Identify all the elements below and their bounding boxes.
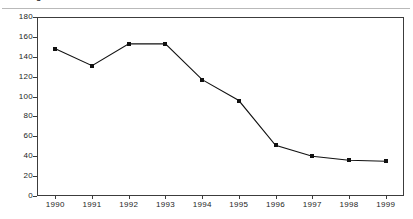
x-tick-mark: [276, 196, 277, 199]
x-tick-label: 1991: [83, 200, 102, 209]
x-tick-label: 1994: [193, 200, 212, 209]
y-tick-mark: [33, 97, 37, 98]
plot-area: [37, 17, 404, 196]
data-point-marker: [53, 47, 57, 51]
y-tick-mark: [33, 156, 37, 157]
y-tick-label: 100: [19, 92, 33, 101]
data-point-marker: [200, 78, 204, 82]
y-tick-label: 60: [24, 131, 34, 140]
x-tick-mark: [349, 196, 350, 199]
data-point-marker: [163, 42, 167, 46]
x-tick-label: 1990: [46, 200, 65, 209]
y-tick-mark: [33, 116, 37, 117]
x-tick-mark: [55, 196, 56, 199]
x-tick-label: 1993: [156, 200, 175, 209]
data-point-marker: [237, 99, 241, 103]
y-tick-label: 140: [19, 52, 33, 61]
x-tick-mark: [386, 196, 387, 199]
data-point-marker: [384, 159, 388, 163]
y-tick-label: 120: [19, 72, 33, 81]
x-tick-mark: [312, 196, 313, 199]
data-point-marker: [90, 64, 94, 68]
x-tick-label: 1996: [266, 200, 285, 209]
y-tick-label: 160: [19, 32, 33, 41]
line-chart: 020406080100120140160180 199019911992199…: [0, 12, 413, 219]
y-tick-mark: [33, 196, 37, 197]
series-line: [37, 17, 404, 196]
x-tick-mark: [165, 196, 166, 199]
x-tick-label: 1995: [229, 200, 248, 209]
x-tick-mark: [129, 196, 130, 199]
data-point-marker: [310, 154, 314, 158]
y-tick-mark: [33, 136, 37, 137]
x-tick-mark: [202, 196, 203, 199]
y-tick-label: 180: [19, 12, 33, 21]
x-tick-label: 1999: [376, 200, 395, 209]
figure-page: Figure 020406080100120140160180 19901991…: [0, 0, 413, 219]
y-tick-mark: [33, 17, 37, 18]
horizontal-rule: [2, 8, 410, 9]
x-tick-label: 1998: [339, 200, 358, 209]
y-tick-mark: [33, 57, 37, 58]
y-axis: 020406080100120140160180: [0, 17, 33, 196]
y-tick-label: 40: [24, 151, 34, 160]
x-tick-mark: [92, 196, 93, 199]
figure-caption-clipped: Figure: [0, 0, 413, 8]
x-tick-label: 1997: [303, 200, 322, 209]
y-tick-label: 80: [24, 111, 34, 120]
y-tick-mark: [33, 37, 37, 38]
x-tick-label: 1992: [119, 200, 138, 209]
figure-caption-text: Figure: [28, 0, 56, 1]
y-tick-mark: [33, 176, 37, 177]
data-point-marker: [347, 158, 351, 162]
x-axis: 1990199119921993199419951996199719981999: [37, 200, 404, 214]
x-tick-mark: [239, 196, 240, 199]
y-tick-label: 20: [24, 171, 34, 180]
y-tick-mark: [33, 77, 37, 78]
data-point-marker: [127, 42, 131, 46]
data-point-marker: [274, 143, 278, 147]
